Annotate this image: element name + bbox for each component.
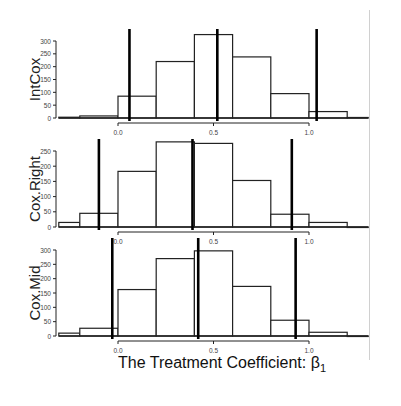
y-tick-label: 0 (47, 224, 51, 231)
histogram-bar (156, 62, 194, 118)
x-tick-label: 0.0 (113, 129, 122, 136)
x-tick-label: 0.0 (113, 238, 122, 245)
y-tick-label: 250 (40, 50, 51, 57)
x-tick-label: 1.0 (304, 238, 313, 245)
panel-intcox: 050100150200250300IntCox0.00.51.0 (26, 29, 368, 136)
y-tick-label: 50 (44, 208, 52, 215)
x-tick-label: 1.0 (304, 347, 313, 354)
histogram-bar (309, 112, 347, 118)
x-axis-title-text: The Treatment Coefficient: β (118, 354, 320, 371)
histogram-bar (233, 286, 271, 336)
histogram-bar (118, 96, 156, 118)
y-tick-label: 250 (40, 148, 51, 155)
y-tick-label: 0 (47, 115, 51, 122)
x-tick-label: 0.5 (209, 347, 218, 354)
histogram-bar (233, 180, 271, 227)
histogram-bar (118, 171, 156, 227)
x-axis-title-subscript: 1 (320, 362, 326, 374)
right-divider (369, 10, 370, 360)
histogram-bar (271, 214, 309, 227)
x-tick-label: 0.5 (209, 129, 218, 136)
histogram-bar (156, 259, 194, 336)
y-axis-label: Cox.Right (26, 155, 43, 222)
y-tick-label: 300 (40, 38, 51, 45)
histogram-bar (194, 35, 232, 118)
y-tick-label: 50 (44, 318, 52, 325)
x-axis-title: The Treatment Coefficient: β1 (118, 354, 326, 374)
histogram-bar (194, 143, 232, 227)
histogram-bar (118, 290, 156, 336)
panel-cox-mid: 050100150200250300Cox.Mid0.00.51.0 (26, 238, 368, 354)
histogram-bar (233, 57, 271, 118)
histogram-bar (194, 251, 232, 336)
y-axis-label: Cox.Mid (26, 265, 43, 320)
y-tick-label: 300 (40, 247, 51, 254)
x-tick-label: 1.0 (304, 129, 313, 136)
histogram-bar (271, 320, 309, 336)
panel-cox-right: 050100150200250Cox.Right0.00.51.0 (26, 139, 368, 245)
histogram-bar (156, 142, 194, 227)
histogram-bar (271, 94, 309, 118)
x-tick-label: 0.5 (209, 238, 218, 245)
y-axis-label: IntCox (26, 57, 43, 101)
y-tick-label: 50 (44, 102, 52, 109)
x-tick-label: 0.0 (113, 347, 122, 354)
histogram-figure: 050100150200250300IntCox0.00.51.00501001… (0, 0, 401, 406)
y-tick-label: 0 (47, 333, 51, 340)
